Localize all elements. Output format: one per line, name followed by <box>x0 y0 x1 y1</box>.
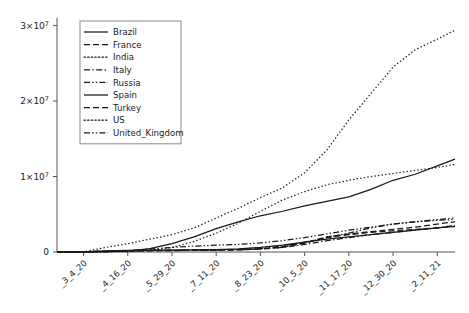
x-tick-label: _8_23_20 <box>229 258 266 293</box>
legend-label-turkey[interactable]: Turkey <box>112 103 141 113</box>
legend-label-united-kingdom[interactable]: United_Kingdom <box>113 128 184 138</box>
x-tick-label: _12_30_20 <box>357 258 398 296</box>
legend-label-italy[interactable]: Italy <box>113 65 132 75</box>
series-line-brazil <box>57 159 455 252</box>
x-axis-ticks: _3_4_20_4_16_20_5_29_20_7_11_20_8_23_20_… <box>56 252 443 296</box>
y-tick-label: 1×107 <box>20 171 49 182</box>
series-line-spain <box>57 226 455 252</box>
legend-label-spain[interactable]: Spain <box>113 90 137 100</box>
series-line-united-kingdom <box>57 220 455 252</box>
x-tick-label: _4_16_20 <box>96 258 133 293</box>
x-tick-label: _3_4_20 <box>56 258 89 289</box>
legend-label-brazil[interactable]: Brazil <box>113 27 137 37</box>
y-tick-label: 2×107 <box>20 95 49 106</box>
x-tick-label: _5_29_20 <box>140 258 177 293</box>
legend-label-france[interactable]: France <box>113 40 142 50</box>
x-tick-label: _11_17_20 <box>313 258 354 296</box>
x-tick-label: _10_5_20 <box>273 258 310 293</box>
chart-legend[interactable]: BrazilFranceIndiaItalyRussiaSpainTurkeyU… <box>80 21 184 144</box>
series-line-russia <box>57 218 455 252</box>
x-tick-label: _7_11_20 <box>185 258 222 293</box>
series-line-india <box>57 164 455 252</box>
y-tick-label: 0 <box>43 247 49 257</box>
line-chart-canvas: 01×1072×1073×107 _3_4_20_4_16_20_5_29_20… <box>0 0 469 313</box>
chart-figure: 01×1072×1073×107 _3_4_20_4_16_20_5_29_20… <box>0 0 469 313</box>
y-tick-label: 3×107 <box>20 20 49 31</box>
y-axis-ticks: 01×1072×1073×107 <box>20 20 57 258</box>
x-tick-label: _2_11_21 <box>406 258 443 293</box>
legend-label-russia[interactable]: Russia <box>113 78 141 88</box>
legend-label-india[interactable]: India <box>113 52 134 62</box>
legend-label-us[interactable]: US <box>113 115 125 125</box>
